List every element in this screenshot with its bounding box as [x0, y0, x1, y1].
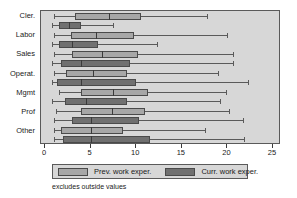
whisker-high — [150, 139, 244, 140]
box — [72, 117, 139, 124]
whisker-high — [98, 44, 157, 45]
whisker-high — [139, 120, 243, 121]
x-tick-label-25: 25 — [268, 148, 276, 157]
median-line — [86, 98, 87, 105]
whisker-low — [54, 16, 75, 17]
whisker-high — [138, 54, 233, 55]
y-axis-label-prof: Prof — [21, 108, 35, 116]
whisker-cap-high — [233, 61, 234, 66]
whisker-cap-low — [59, 90, 60, 95]
whisker-cap-low — [56, 109, 57, 114]
whisker-cap-low — [54, 128, 55, 133]
box — [59, 41, 98, 48]
median-line — [81, 60, 82, 67]
median-line — [112, 108, 113, 115]
legend-swatch-prev-icon — [58, 168, 88, 176]
whisker-high — [141, 16, 208, 17]
whisker-low — [54, 120, 72, 121]
whisker-cap-low — [52, 42, 53, 47]
y-axis-label-sales: Sales — [16, 50, 35, 58]
boxplot-prof-curr — [41, 117, 279, 124]
box — [81, 89, 148, 96]
boxplot-sales-curr — [41, 60, 279, 67]
legend-label-prev: Prev. work exper. — [94, 167, 151, 176]
median-line — [93, 70, 94, 77]
boxplot-other-prev — [41, 127, 279, 134]
whisker-cap-high — [244, 137, 245, 142]
whisker-low — [54, 130, 61, 131]
median-line — [91, 136, 92, 143]
chart-legend: Prev. work exper. Curr. work exper. — [52, 164, 248, 179]
whisker-high — [145, 111, 229, 112]
box-plot-figure: Cler.LaborSalesOperat.MgmtProfOther 0510… — [0, 0, 297, 198]
whisker-high — [134, 35, 227, 36]
plot-frame — [40, 10, 280, 144]
x-tick-label-5: 5 — [88, 148, 92, 157]
box — [71, 32, 135, 39]
whisker-high — [148, 92, 226, 93]
box — [65, 98, 127, 105]
boxplot-operat-curr — [41, 79, 279, 86]
y-axis-label-operat: Operat. — [10, 70, 35, 78]
box — [72, 51, 138, 58]
whisker-cap-high — [218, 71, 219, 76]
x-tick-label-0: 0 — [42, 148, 46, 157]
boxplot-labor-curr — [41, 41, 279, 48]
y-axis-label-labor: Labor — [16, 31, 35, 39]
x-axis: 0510152025 — [40, 144, 280, 160]
box — [81, 108, 146, 115]
whisker-low — [52, 101, 65, 102]
whisker-cap-low — [52, 61, 53, 66]
x-tick-label-10: 10 — [131, 148, 139, 157]
whisker-low — [54, 54, 72, 55]
y-axis-label-cler: Cler. — [20, 12, 35, 20]
boxplot-other-curr — [41, 136, 279, 143]
whisker-cap-high — [229, 109, 230, 114]
boxplot-prof-prev — [41, 108, 279, 115]
whisker-cap-low — [52, 99, 53, 104]
whisker-cap-low — [52, 23, 53, 28]
whisker-cap-low — [54, 71, 55, 76]
median-line — [91, 127, 92, 134]
boxplot-sales-prev — [41, 51, 279, 58]
box — [57, 79, 136, 86]
whisker-cap-low — [54, 52, 55, 57]
whisker-cap-high — [113, 23, 114, 28]
whisker-high — [136, 82, 248, 83]
whisker-high — [127, 101, 220, 102]
boxplot-labor-prev — [41, 32, 279, 39]
box — [59, 22, 82, 29]
legend-entry-prev: Prev. work exper. — [58, 165, 151, 178]
whisker-low — [52, 63, 61, 64]
y-axis-label-mgmt: Mgmt — [16, 89, 35, 97]
median-line — [113, 89, 114, 96]
x-tick-label-15: 15 — [177, 148, 185, 157]
whisker-cap-high — [157, 42, 158, 47]
whisker-cap-high — [205, 128, 206, 133]
boxplot-mgmt-curr — [41, 98, 279, 105]
whisker-cap-high — [248, 80, 249, 85]
boxplot-operat-prev — [41, 70, 279, 77]
legend-label-curr: Curr. work exper. — [201, 167, 258, 176]
boxplot-cler-curr — [41, 22, 279, 29]
median-line — [91, 117, 92, 124]
whisker-high — [123, 130, 205, 131]
plot-area — [41, 11, 279, 143]
whisker-cap-low — [54, 118, 55, 123]
y-axis-category-labels: Cler.LaborSalesOperat.MgmtProfOther — [0, 10, 37, 144]
chart-footnote: excludes outside values — [52, 182, 126, 191]
whisker-low — [56, 111, 81, 112]
whisker-cap-high — [220, 99, 221, 104]
whisker-cap-low — [54, 14, 55, 19]
box — [61, 60, 129, 67]
whisker-cap-high — [226, 90, 227, 95]
whisker-high — [130, 63, 233, 64]
median-line — [96, 32, 97, 39]
boxplot-mgmt-prev — [41, 89, 279, 96]
whisker-low — [54, 35, 70, 36]
legend-swatch-curr-icon — [165, 168, 195, 176]
boxplot-cler-prev — [41, 13, 279, 20]
whisker-high — [81, 25, 113, 26]
box — [63, 136, 150, 143]
legend-entry-curr: Curr. work exper. — [165, 165, 258, 178]
